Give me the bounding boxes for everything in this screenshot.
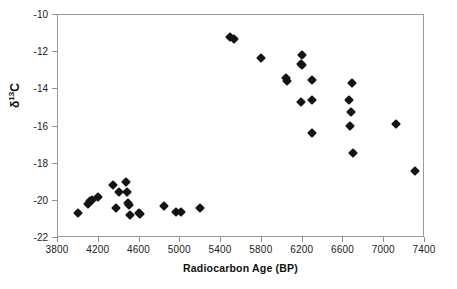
- data-point: [121, 177, 131, 187]
- x-tick-4200: [98, 237, 99, 242]
- data-point: [122, 188, 132, 198]
- x-tick-5400: [220, 237, 221, 242]
- data-point: [176, 207, 186, 217]
- data-point: [297, 50, 307, 60]
- y-tick-label--12: -12: [22, 46, 48, 57]
- data-point: [296, 97, 306, 107]
- y-axis-label-delta: δ: [8, 101, 22, 108]
- x-tick-label-5000: 5000: [168, 244, 191, 255]
- x-tick-7400: [424, 237, 425, 242]
- data-point: [346, 107, 356, 117]
- x-tick-label-5800: 5800: [249, 244, 272, 255]
- y-tick-label--20: -20: [22, 194, 48, 205]
- data-point: [73, 208, 83, 218]
- scatter-plot-figure: δ13C -10-12-14-16-18-20-22 3800420046005…: [0, 0, 457, 289]
- y-axis-label-element: C: [8, 83, 22, 92]
- data-point: [125, 210, 135, 220]
- x-tick-3800: [57, 237, 58, 242]
- x-tick-label-4200: 4200: [86, 244, 109, 255]
- x-tick-7000: [383, 237, 384, 242]
- x-tick-4600: [139, 237, 140, 242]
- x-tick-label-3800: 3800: [45, 244, 68, 255]
- x-tick-label-7000: 7000: [372, 244, 395, 255]
- x-axis-label: Radiocarbon Age (BP): [57, 262, 424, 274]
- data-point: [307, 75, 317, 85]
- data-point: [392, 119, 402, 129]
- x-tick-label-6600: 6600: [331, 244, 354, 255]
- x-tick-6600: [342, 237, 343, 242]
- x-tick-5000: [179, 237, 180, 242]
- data-point: [307, 96, 317, 106]
- data-point: [256, 53, 266, 63]
- data-point: [195, 203, 205, 213]
- data-point: [348, 148, 358, 158]
- x-tick-label-4600: 4600: [127, 244, 150, 255]
- data-point: [410, 166, 420, 176]
- plot-data-area: [58, 15, 423, 236]
- x-tick-label-5400: 5400: [209, 244, 232, 255]
- y-tick-label--18: -18: [22, 157, 48, 168]
- y-tick-label--14: -14: [22, 83, 48, 94]
- y-tick-label--16: -16: [22, 120, 48, 131]
- data-point: [229, 34, 239, 44]
- y-tick-label--10: -10: [22, 9, 48, 20]
- data-point: [159, 201, 169, 211]
- y-tick-label--22: -22: [22, 232, 48, 243]
- x-tick-6200: [302, 237, 303, 242]
- data-point: [344, 95, 354, 105]
- x-tick-label-6200: 6200: [290, 244, 313, 255]
- plot-frame: [57, 14, 424, 237]
- data-point: [345, 121, 355, 131]
- data-point: [347, 78, 357, 88]
- x-tick-label-7400: 7400: [412, 244, 435, 255]
- x-tick-5800: [261, 237, 262, 242]
- y-axis-label: δ13C: [7, 46, 22, 146]
- data-point: [111, 203, 121, 213]
- data-point: [307, 128, 317, 138]
- y-axis-label-superscript: 13: [7, 92, 16, 101]
